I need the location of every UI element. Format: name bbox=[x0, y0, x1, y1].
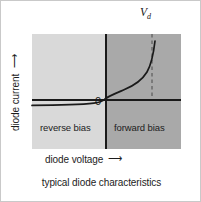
y-axis-title: diode current⟶ bbox=[9, 39, 21, 131]
y-axis-arrow-icon: ⟶ bbox=[9, 54, 20, 68]
threshold-voltage-label: Vd bbox=[140, 7, 151, 21]
x-axis-title: diode voltage⟶ bbox=[45, 153, 122, 165]
diode-iv-curve bbox=[32, 41, 155, 105]
threshold-voltage-symbol: V bbox=[140, 6, 147, 18]
diode-characteristics-figure: reverse bias forward bias 0 Vd diode vol… bbox=[0, 0, 201, 202]
figure-caption: typical diode characteristics bbox=[1, 177, 201, 188]
threshold-voltage-subscript: d bbox=[147, 12, 151, 21]
forward-bias-label: forward bias bbox=[114, 122, 165, 133]
x-axis-title-text: diode voltage bbox=[45, 154, 103, 165]
x-axis-arrow-icon: ⟶ bbox=[108, 153, 122, 164]
y-axis-title-text: diode current bbox=[10, 74, 21, 131]
origin-label: 0 bbox=[95, 96, 101, 107]
plot-area: reverse bias forward bias 0 bbox=[32, 34, 181, 149]
reverse-bias-label: reverse bias bbox=[40, 122, 91, 133]
